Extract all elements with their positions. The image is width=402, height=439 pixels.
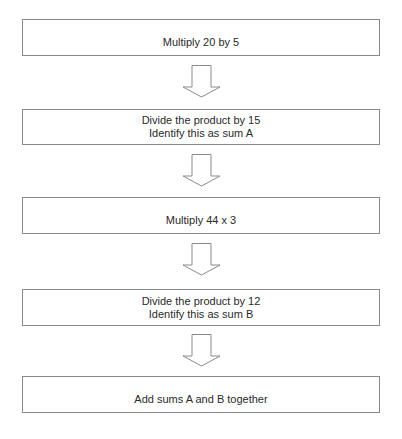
step-3-box: Multiply 44 x 3 [22,197,380,234]
down-arrow-icon [182,65,222,98]
step-5-box: Add sums A and B together [22,376,380,413]
step-1-text: Multiply 20 by 5 [163,36,239,49]
step-5-text: Add sums A and B together [134,393,267,406]
down-arrow-icon [182,243,222,276]
step-2-text-line-1: Divide the product by 15 [142,114,261,127]
step-4-text-line-1: Divide the product by 12 [142,295,261,308]
step-3-text: Multiply 44 x 3 [166,214,236,227]
step-1-box: Multiply 20 by 5 [22,19,380,56]
down-arrow-icon [182,154,222,187]
step-2-box: Divide the product by 15 Identify this a… [22,109,380,145]
step-4-text-line-2: Identify this as sum B [149,308,254,321]
down-arrow-icon [182,334,222,367]
step-2-text-line-2: Identify this as sum A [149,127,253,140]
step-4-box: Divide the product by 12 Identify this a… [22,289,380,326]
